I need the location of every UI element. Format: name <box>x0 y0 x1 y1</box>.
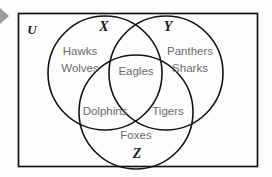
set-y-label: Y <box>164 19 174 34</box>
region-y-and-z-member-1: Tigers <box>152 105 184 117</box>
universal-set-rect <box>19 14 258 167</box>
region-z-only-member-1: Foxes <box>120 129 152 141</box>
universal-set-label: U <box>27 22 37 37</box>
venn-diagram-canvas: U X Y Z Hawks Wolves Panthers Sharks Eag… <box>0 0 272 177</box>
region-x-and-z-member-1: Dolphins <box>83 105 128 117</box>
region-x-and-y-member-1: Eagles <box>118 65 153 77</box>
region-y-only-member-2: Sharks <box>172 62 208 74</box>
region-x-only-member-2: Wolves <box>61 62 99 74</box>
venn-diagram-screenshot: U X Y Z Hawks Wolves Panthers Sharks Eag… <box>0 0 272 177</box>
region-x-only-member-1: Hawks <box>63 45 98 57</box>
set-z-label: Z <box>132 146 142 161</box>
set-x-label: X <box>98 19 109 34</box>
arrow-right-icon <box>0 8 9 24</box>
region-y-only-member-1: Panthers <box>167 45 213 57</box>
